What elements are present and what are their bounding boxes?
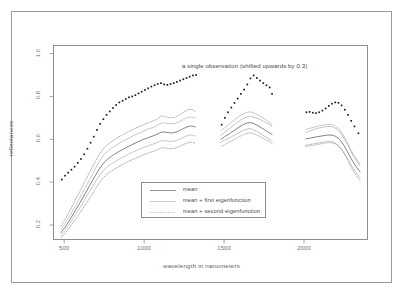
figure-container: 5001000150020000.20.40.60.81.0 reflectan…: [0, 0, 403, 294]
legend-label-mean: mean: [183, 186, 198, 192]
y-tick-label: 0.4: [35, 172, 41, 190]
x-tick-label: 500: [55, 245, 73, 251]
observation-annotation: a single observation (shifted upwards by…: [182, 62, 307, 69]
legend-item-first-eigenfunction: mean + first eigenfunction: [142, 197, 267, 206]
legend-key-second-eigenfunction-icon: [150, 212, 176, 213]
legend-label-second-eigenfunction: mean + second eigenfunction: [183, 208, 260, 214]
legend-label-first-eigenfunction: mean + first eigenfunction: [183, 197, 251, 203]
legend-key-mean-icon: [150, 190, 176, 191]
y-tick-label: 1.0: [35, 44, 41, 62]
y-tick-label: 0.2: [35, 215, 41, 233]
y-axis-title: reflectances: [7, 109, 14, 169]
x-tick-label: 1500: [215, 245, 233, 251]
chart-legend: mean mean + first eigenfunction mean + s…: [141, 182, 266, 218]
legend-key-first-eigenfunction-icon: [150, 201, 176, 202]
x-tick-label: 1000: [135, 245, 153, 251]
legend-item-second-eigenfunction: mean + second eigenfunction: [142, 208, 267, 217]
y-tick-label: 0.8: [35, 86, 41, 104]
x-tick-label: 2000: [295, 245, 313, 251]
legend-item-mean: mean: [142, 186, 267, 195]
y-tick-label: 0.6: [35, 129, 41, 147]
x-axis-title: wavelength in nanometers: [0, 262, 403, 269]
